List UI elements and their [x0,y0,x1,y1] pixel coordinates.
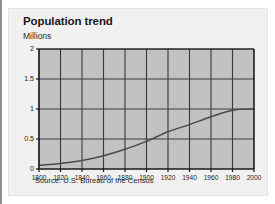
population-trend-line-chart: 00.511.52 180018201840186018801900192019… [9,9,269,197]
svg-text:1920: 1920 [161,174,176,181]
svg-text:1960: 1960 [204,174,219,181]
figure-card: Population trend Millions 00.511.52 1800… [8,8,268,196]
svg-text:1940: 1940 [182,174,197,181]
y-axis-tick-labels: 00.511.52 [24,45,39,172]
svg-text:0: 0 [30,165,34,172]
left-accent-rule [0,0,2,204]
svg-text:2: 2 [30,45,34,52]
source-note: Source: U.S. Bureau of the Census [35,176,154,185]
chart-plot-area: 00.511.52 180018201840186018801900192019… [9,9,269,197]
svg-text:1: 1 [30,105,34,112]
svg-text:2000: 2000 [247,174,262,181]
svg-text:1.5: 1.5 [24,75,34,82]
svg-text:0.5: 0.5 [24,135,34,142]
svg-text:1980: 1980 [225,174,240,181]
